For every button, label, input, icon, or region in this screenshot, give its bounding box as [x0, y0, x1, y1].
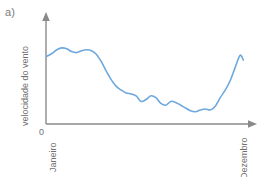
axes-group — [42, 12, 257, 128]
chart-canvas — [0, 0, 264, 177]
x-axis-arrow-icon — [248, 120, 257, 128]
series-group — [47, 48, 243, 112]
y-axis-arrow-icon — [42, 12, 50, 21]
wind-speed-curve — [47, 48, 243, 112]
figure-panel: a) velocidade do vento 0 Janeiro Dezembr… — [0, 0, 264, 177]
